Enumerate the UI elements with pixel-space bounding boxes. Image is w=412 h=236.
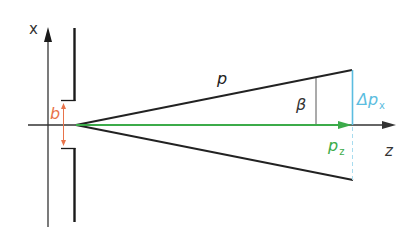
lower-ray xyxy=(76,125,353,180)
p-z-main: p xyxy=(328,136,338,155)
upper-ray xyxy=(76,70,352,125)
diagram-canvas xyxy=(0,0,412,236)
p-z-label: pz xyxy=(328,138,344,154)
delta-p-x-label: Δpx xyxy=(357,92,385,108)
momentum-label: p xyxy=(217,71,227,87)
delta-p-x-subscript: x xyxy=(379,100,385,111)
delta-p-x-main: Δp xyxy=(357,90,378,109)
diagram: x z b p β Δpx pz xyxy=(0,0,412,236)
z-axis-label: z xyxy=(385,144,393,159)
p-z-subscript: z xyxy=(339,146,344,157)
angle-label: β xyxy=(296,97,306,113)
slit-width-label: b xyxy=(50,106,60,122)
z-axis-arrowhead-icon xyxy=(382,121,396,129)
x-axis-label: x xyxy=(29,22,38,37)
x-axis-arrowhead-icon xyxy=(44,27,52,42)
p-z-arrowhead-icon xyxy=(338,121,352,129)
